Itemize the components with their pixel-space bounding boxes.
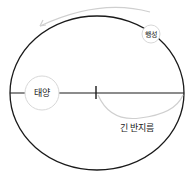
sun-label: 태양	[34, 88, 50, 98]
orbit-diagram: 태양 행성 긴 반지름	[0, 0, 191, 177]
planet-label: 행성	[145, 30, 157, 39]
semi-major-axis-label: 긴 반지름	[120, 123, 155, 133]
semi-major-axis-arc	[98, 95, 183, 119]
arrow-head-icon	[40, 20, 46, 26]
